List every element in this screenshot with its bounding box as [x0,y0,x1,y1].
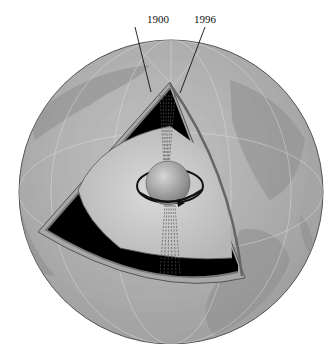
earth-cutaway-diagram [0,0,335,344]
